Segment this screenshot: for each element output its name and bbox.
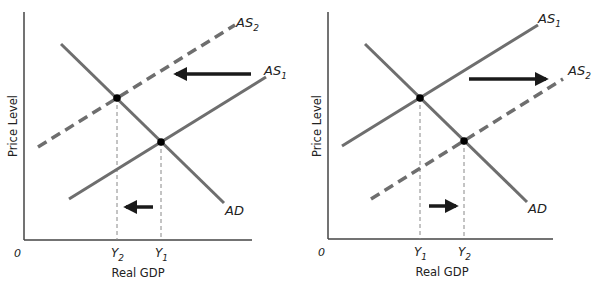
right-equilibrium-point-2 — [460, 137, 468, 145]
left-panel: AS2 AS1 AD Y2 Y1 0 Real GDP Price Level — [6, 12, 287, 280]
right-equilibrium-point-1 — [416, 94, 424, 102]
right-tick-y1: Y1 — [414, 245, 427, 262]
right-as1-label: AS1 — [537, 11, 561, 29]
left-tick-y2: Y2 — [111, 246, 124, 263]
left-y-axis-label: Price Level — [6, 95, 20, 157]
right-as1-curve — [342, 25, 538, 146]
left-x-axis-label: Real GDP — [111, 266, 164, 280]
left-equilibrium-point-2 — [113, 94, 121, 102]
left-tick-y1: Y1 — [155, 246, 168, 263]
right-x-axis-label: Real GDP — [415, 265, 468, 279]
left-as1-curve — [69, 77, 266, 199]
left-as2-curve-dashed — [38, 25, 235, 147]
right-y-axis-label: Price Level — [310, 95, 324, 157]
left-equilibrium-point-1 — [157, 138, 165, 146]
left-ad-label: AD — [224, 203, 244, 218]
right-panel: AS1 AS2 AD Y1 Y2 0 Real GDP Price Level — [310, 11, 591, 279]
left-ad-curve — [61, 44, 224, 203]
right-ad-curve — [365, 44, 527, 202]
left-as2-label: AS2 — [235, 15, 259, 33]
as-ad-diagram: AS2 AS1 AD Y2 Y1 0 Real GDP Price Level … — [0, 0, 594, 288]
right-origin-label: 0 — [318, 246, 325, 259]
right-tick-y2: Y2 — [458, 245, 471, 262]
right-as2-label: AS2 — [567, 63, 591, 81]
right-ad-label: AD — [527, 201, 547, 216]
left-origin-label: 0 — [14, 247, 21, 260]
